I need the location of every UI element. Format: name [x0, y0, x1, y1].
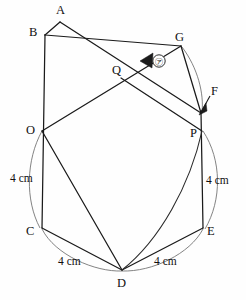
vertex-label-D: D: [117, 276, 126, 290]
vertex-label-O: O: [26, 123, 35, 137]
dimension-label-bottom-left: 4 cm: [58, 255, 81, 267]
vertex-label-E: E: [207, 224, 215, 238]
vertex-label-C: C: [26, 224, 34, 238]
segment-A-B: [45, 22, 60, 35]
angle-marker-glyph: ㋐: [155, 58, 163, 67]
geometry-diagram: ㋐ A B G Q F O P C E D 4 cm 4 cm 4 cm 4 c…: [0, 0, 246, 300]
vertex-label-P: P: [190, 126, 197, 140]
vertex-label-B: B: [29, 25, 37, 39]
dimension-label-left: 4 cm: [10, 172, 33, 184]
vertex-label-A: A: [56, 3, 65, 17]
dimension-label-right: 4 cm: [206, 174, 229, 186]
segment-F-E: [201, 112, 203, 228]
angle-wedge: [140, 53, 153, 68]
vertex-label-Q: Q: [112, 63, 121, 77]
segment-Q-P: [121, 78, 202, 131]
vertex-label-G: G: [175, 30, 184, 44]
geometry-figure-svg: ㋐ A B G Q F O P C E D 4 cm 4 cm 4 cm 4 c…: [0, 0, 246, 300]
vertex-label-F: F: [211, 84, 218, 98]
dimension-label-bottom-right: 4 cm: [154, 255, 177, 267]
segment-B-G: [45, 35, 181, 46]
